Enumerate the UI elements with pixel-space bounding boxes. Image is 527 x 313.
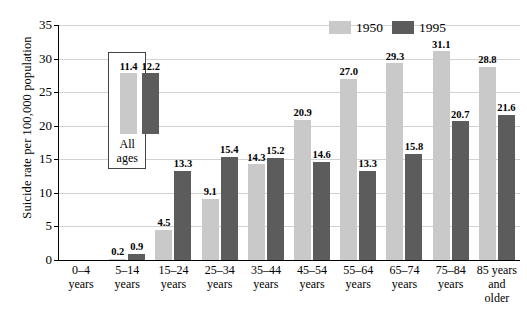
x-tick-label-line: 0–4 [58,263,104,277]
x-tick-label-line: years [335,277,381,291]
y-tick-label: 5 [46,218,53,234]
x-tick-label-line: 25–34 [197,263,243,277]
y-tick-label: 15 [39,151,52,167]
y-tick-label: 35 [39,17,52,33]
inset-bar-1950: 11.4 [120,73,137,134]
bar-value-label: 28.8 [478,55,496,66]
x-tick-label: 55–64years [335,263,381,291]
bar-value-label: 13.3 [359,159,377,170]
bar-1995: 13.3 [174,171,191,260]
x-tick-label: 15–24years [150,263,196,291]
legend-label-1995: 1995 [419,21,446,35]
bar-1995: 21.6 [498,115,515,260]
x-tick-label: 65–74years [381,263,427,291]
bar-value-label: 15.2 [266,146,284,157]
bar-group [58,25,104,260]
inset-bar-label-1950: 11.4 [120,62,138,73]
bar-1950: 29.3 [386,63,403,260]
plot-area: 05101520253035 0.20.94.513.39.115.414.31… [58,25,520,260]
y-axis-title: Suicide rate per 100,000 population [20,3,35,253]
y-tick-label: 20 [39,118,52,134]
bar-group: 29.315.8 [381,25,427,260]
y-tick-label: 30 [39,51,52,67]
x-tick-label-line: years [243,277,289,291]
bar-1950: 27.0 [340,79,357,260]
bar-value-label: 9.1 [204,187,217,198]
x-tick-label-line: 15–24 [150,263,196,277]
legend-swatch-1950 [329,21,351,34]
inset-bars: 11.4 12.2 [109,73,145,134]
x-tick-label-line: 75–84 [428,263,474,277]
x-tick-label: 45–54years [289,263,335,291]
x-tick-label-line: and [474,277,520,291]
bar-1950: 28.8 [479,67,496,260]
bar-group: 28.821.6 [474,25,520,260]
bar-value-label: 14.3 [247,153,265,164]
x-tick-label-line: years [289,277,335,291]
inset-caption: All ages [109,137,145,165]
bar-value-label: 15.8 [405,142,423,153]
all-ages-inset: 11.4 12.2 All ages [108,52,146,170]
bar-1995: 0.9 [128,254,145,260]
bar-value-label: 13.3 [174,159,192,170]
legend-label-1950: 1950 [356,21,383,35]
bar-1950: 14.3 [248,164,265,260]
bar-1995: 20.7 [452,121,469,260]
bar-value-label: 29.3 [386,52,404,63]
x-tick-label: 5–14years [104,263,150,291]
x-tick-label-line: years [197,277,243,291]
bar-1950: 31.1 [433,51,450,260]
x-tick-label-line: 35–44 [243,263,289,277]
bar-1950: 20.9 [294,120,311,260]
legend-item-1950: 1950 [329,21,383,35]
x-tick-label-line: years [428,277,474,291]
inset-caption-line-2: ages [109,151,145,165]
x-tick-label: 35–44years [243,263,289,291]
x-tick-label-line: years [58,277,104,291]
bar-1950: 4.5 [155,230,172,260]
bar-group: 27.013.3 [335,25,381,260]
inset-bar-1995: 12.2 [142,73,159,134]
bar-group: 9.115.4 [197,25,243,260]
bar-group: 20.914.6 [289,25,335,260]
bar-value-label: 14.6 [312,150,330,161]
bar-1995: 13.3 [359,171,376,260]
bar-group: 31.120.7 [428,25,474,260]
bar-1995: 15.4 [221,157,238,260]
bar-1995: 14.6 [313,162,330,260]
bar-1995: 15.2 [267,158,284,260]
x-tick-label: 85 yearsandolder [474,263,520,305]
bar-chart: Suicide rate per 100,000 population 0510… [0,0,527,313]
x-tick-label-line: 45–54 [289,263,335,277]
x-tick-label-line: 5–14 [104,263,150,277]
bar-value-label: 0.9 [130,242,143,253]
bar-value-label: 0.2 [111,247,124,258]
x-tick-label-line: 85 years [474,263,520,277]
inset-bar-label-1995: 12.2 [142,62,160,73]
bar-value-label: 31.1 [432,40,450,51]
x-tick-label-line: years [104,277,150,291]
bar-1995: 15.8 [405,154,422,260]
bar-value-label: 27.0 [340,67,358,78]
y-tick-label: 0 [46,252,53,268]
y-tick-label: 25 [39,84,52,100]
y-tick-mark [54,260,58,261]
bar-1950: 9.1 [202,199,219,260]
bar-1950: 0.2 [109,259,126,260]
inset-caption-line-1: All [109,137,145,151]
bar-value-label: 20.9 [293,108,311,119]
x-tick-label-line: 55–64 [335,263,381,277]
x-tick-label: 75–84years [428,263,474,291]
bar-value-label: 21.6 [497,103,515,114]
bar-value-label: 15.4 [220,145,238,156]
bar-value-label: 20.7 [451,110,469,121]
x-tick-label: 25–34years [197,263,243,291]
legend-swatch-1995 [392,21,414,34]
x-tick-label-line: years [150,277,196,291]
x-tick-label-line: 65–74 [381,263,427,277]
legend-item-1995: 1995 [392,21,446,35]
x-tick-label-line: older [474,291,520,305]
x-tick-label-line: years [381,277,427,291]
bar-group: 14.315.2 [243,25,289,260]
y-tick-label: 10 [39,185,52,201]
